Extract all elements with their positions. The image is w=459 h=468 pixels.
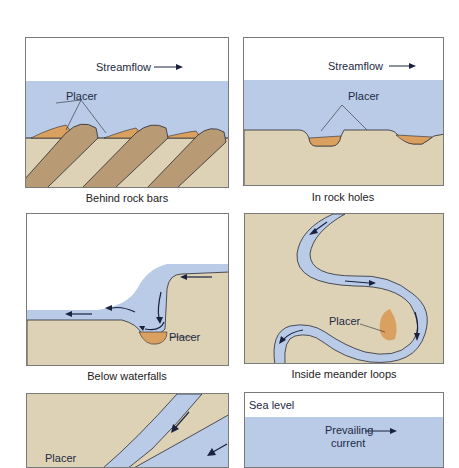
caption-inside-meander-loops: Inside meander loops (239, 368, 449, 380)
panel-behind-rock-bars: Streamflow Placer (25, 37, 229, 188)
placer-label: Placer (348, 90, 379, 102)
placer-label: Placer (45, 452, 76, 464)
placer-label: Placer (66, 90, 97, 102)
meander-illustration (245, 214, 444, 364)
panel-in-rock-holes: Streamflow Placer (243, 37, 444, 186)
streamflow-label: Streamflow (96, 61, 151, 73)
placer-label: Placer (169, 331, 200, 343)
waterfall-illustration (27, 214, 229, 366)
panel-below-waterfalls: Placer (26, 213, 229, 366)
panel-coastal: Sea level Prevailing current (244, 392, 444, 468)
sea-level-label: Sea level (249, 399, 294, 411)
current-label-line1: Prevailing (325, 424, 373, 436)
panel-tributary-junction: Placer (26, 393, 229, 468)
caption-in-rock-holes: In rock holes (238, 191, 448, 203)
caption-below-waterfalls: Below waterfalls (22, 370, 232, 382)
panel-inside-meander-loops: Placer (244, 213, 444, 364)
placer-label: Placer (329, 315, 360, 327)
current-label-line2: current (331, 437, 365, 449)
streamflow-label: Streamflow (328, 60, 383, 72)
caption-behind-rock-bars: Behind rock bars (22, 192, 232, 204)
